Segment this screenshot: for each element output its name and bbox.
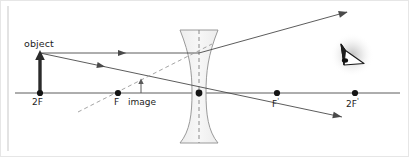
object-label: object (24, 39, 54, 49)
image-label: image (128, 98, 156, 107)
point-2F-prime-mark: ' (357, 97, 359, 105)
point-2F-prime-dot (352, 90, 358, 96)
point-2F-dot (37, 90, 43, 96)
point-F-prime-dot (274, 90, 280, 96)
eye-icon (330, 33, 374, 77)
point-F-label: F (114, 98, 119, 107)
point-F-dot (115, 90, 121, 96)
point-F-prime-mark: ' (277, 97, 279, 105)
point-F-prime-label: F' (272, 98, 279, 109)
point-O-dot (196, 90, 203, 97)
optics-diagram-figure: object 2F F image F' 2F' (0, 0, 409, 157)
ray-diagram-canvas (0, 0, 409, 157)
point-2F-label: 2F (32, 98, 43, 107)
point-2F-prime-label: 2F' (346, 98, 359, 109)
point-2F-prime-letter: 2F (346, 99, 357, 109)
